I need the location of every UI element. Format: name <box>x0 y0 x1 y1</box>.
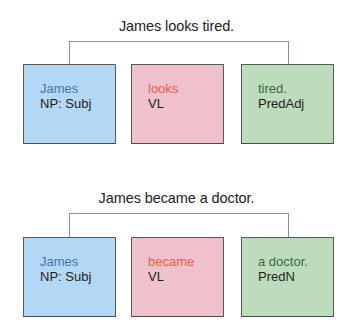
connector-line-subject <box>69 41 70 64</box>
subject-role: NP: Subj <box>40 269 91 284</box>
complement-box: a doctor. PredN <box>241 237 334 317</box>
subject-role: NP: Subj <box>40 96 91 111</box>
complement-role: PredAdj <box>258 96 304 111</box>
subject-word: James <box>40 254 78 269</box>
sentence-label: James became a doctor. <box>0 190 353 206</box>
connector-line-horizontal <box>69 41 289 42</box>
verb-box: looks VL <box>131 64 224 144</box>
subject-box: James NP: Subj <box>23 64 116 144</box>
sentence-label: James looks tired. <box>0 18 353 34</box>
verb-role: VL <box>148 96 164 111</box>
complement-role: PredN <box>258 269 295 284</box>
verb-word: became <box>148 254 194 269</box>
subject-box: James NP: Subj <box>23 237 116 317</box>
diagram-linking-verb-predn: James became a doctor. James NP: Subj be… <box>0 172 353 330</box>
connector-line-complement <box>288 213 289 237</box>
verb-role: VL <box>148 269 164 284</box>
connector-line-subject <box>69 213 70 237</box>
complement-word: a doctor. <box>258 254 308 269</box>
complement-word: tired. <box>258 81 287 96</box>
verb-word: looks <box>148 81 178 96</box>
complement-box: tired. PredAdj <box>241 64 334 144</box>
diagram-linking-verb-predadj: James looks tired. James NP: Subj looks … <box>0 0 353 165</box>
verb-box: became VL <box>131 237 224 317</box>
connector-line-complement <box>288 41 289 64</box>
connector-line-horizontal <box>69 213 289 214</box>
subject-word: James <box>40 81 78 96</box>
